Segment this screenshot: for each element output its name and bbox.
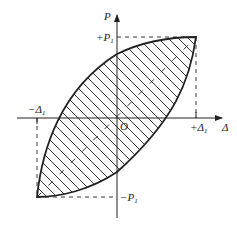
delta-axis-label: Δ	[221, 121, 228, 133]
hysteresis-diagram: P Δ O +P1 −P1 −Δ1 +Δ1	[0, 0, 237, 231]
p-pos-label: +P1	[96, 31, 114, 45]
delta-pos-label: +Δ1	[190, 121, 207, 135]
delta-neg-label: −Δ1	[28, 103, 45, 117]
origin-label: O	[120, 120, 128, 132]
p-axis-label: P	[103, 10, 111, 22]
p-neg-label: −P1	[120, 191, 138, 205]
